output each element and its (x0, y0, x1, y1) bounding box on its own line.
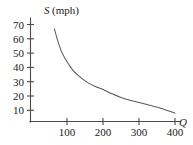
y-axis-title-variable: S (44, 4, 50, 16)
demand-curve (54, 29, 175, 113)
chart-figure: 70 60 50 40 30 20 10 100 200 300 400 S (… (0, 0, 193, 145)
chart-plot-area: 70 60 50 40 30 20 10 100 200 300 400 S (… (0, 0, 193, 145)
x-axis-title: Q (179, 116, 187, 128)
y-tick-label-60: 60 (13, 33, 25, 45)
x-tick-label-300: 300 (131, 126, 148, 138)
y-axis-tick-labels: 70 60 50 40 30 20 10 (13, 19, 25, 117)
y-tick-label-40: 40 (13, 61, 25, 73)
y-tick-label-30: 30 (13, 76, 25, 88)
y-axis-title: S (mph) (44, 4, 79, 17)
y-tick-label-20: 20 (13, 90, 25, 102)
y-tick-label-10: 10 (13, 104, 25, 116)
y-tick-label-50: 50 (13, 47, 25, 59)
x-tick-label-200: 200 (95, 126, 112, 138)
y-axis-title-unit: (mph) (52, 4, 79, 17)
y-tick-label-70: 70 (13, 19, 25, 31)
x-axis-tick-labels: 100 200 300 400 (59, 126, 184, 138)
x-tick-label-100: 100 (59, 126, 76, 138)
